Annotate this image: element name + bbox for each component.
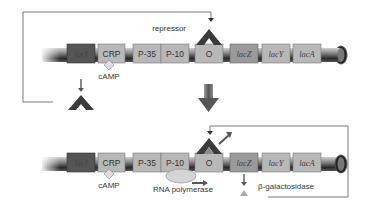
- svg-text:lacI: lacI: [74, 49, 88, 59]
- svg-text:lacZ: lacZ: [236, 49, 251, 59]
- gene-box-lacI: lacI: [67, 44, 95, 63]
- svg-text:lacA: lacA: [299, 158, 315, 168]
- gene-box-CRP: CRP: [98, 44, 125, 63]
- arrowhead-top-feedback: [208, 18, 214, 22]
- gene-box-lacZ: lacZ: [230, 153, 258, 172]
- arrowhead-bottom-feedback: [207, 131, 213, 135]
- svg-text:CRP: CRP: [103, 49, 121, 59]
- box-operator: O: [195, 44, 223, 63]
- svg-text:P-10: P-10: [166, 49, 184, 59]
- box-P35: P-35: [133, 153, 161, 172]
- beta-galactosidase-label: β-galactosidase: [258, 182, 315, 191]
- camp-label: cAMP: [98, 181, 119, 190]
- svg-text:lacI: lacI: [74, 158, 88, 168]
- gene-box-lacA: lacA: [293, 44, 321, 63]
- svg-text:O: O: [206, 49, 213, 59]
- gene-box-lacA: lacA: [293, 153, 321, 172]
- gene-box-lacI: lacI: [67, 153, 95, 172]
- box-P10: P-10: [161, 44, 189, 63]
- gene-box-lacY: lacY: [262, 44, 290, 63]
- repressor-release-arrow: [219, 135, 229, 144]
- svg-text:lacY: lacY: [268, 49, 284, 59]
- repressor-label: repressor: [152, 24, 186, 33]
- svg-text:lacY: lacY: [268, 158, 284, 168]
- repressor-icon: [196, 29, 222, 45]
- top-state: lacI CRP P-35 P-10 O lacZ lacY lacA: [23, 12, 347, 110]
- transition-arrow-icon: [198, 84, 219, 112]
- gene-box-lacY: lacY: [262, 153, 290, 172]
- box-operator: O: [195, 153, 223, 172]
- svg-text:P-35: P-35: [138, 158, 156, 168]
- svg-text:lacZ: lacZ: [236, 158, 251, 168]
- bottom-state: lacI CRP P-35 P-10 O lacZ lacY lacA: [40, 126, 348, 197]
- svg-text:P-10: P-10: [166, 158, 184, 168]
- svg-text:P-35: P-35: [138, 49, 156, 59]
- rna-polymerase-label: RNA polymerase: [153, 185, 214, 194]
- svg-text:O: O: [206, 158, 213, 168]
- gene-box-CRP: CRP: [98, 153, 125, 172]
- box-P35: P-35: [133, 44, 161, 63]
- free-repressor-icon: [68, 95, 94, 110]
- svg-text:lacA: lacA: [299, 49, 315, 59]
- camp-label: cAMP: [98, 72, 119, 81]
- gene-box-lacZ: lacZ: [230, 44, 258, 63]
- rna-polymerase-icon: [166, 169, 196, 183]
- lac-operon-diagram: lacI CRP P-35 P-10 O lacZ lacY lacA: [0, 0, 366, 207]
- svg-text:CRP: CRP: [103, 158, 121, 168]
- beta-galactosidase-icon: [240, 190, 248, 196]
